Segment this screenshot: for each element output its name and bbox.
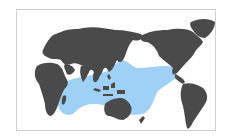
south-america-landmass bbox=[181, 83, 207, 128]
world-map-svg bbox=[17, 10, 216, 131]
central-america-landmass bbox=[175, 74, 185, 84]
distribution-map: Species distribution range bbox=[16, 9, 216, 131]
arabia-landmass bbox=[64, 64, 75, 75]
new-zealand-landmass bbox=[139, 116, 145, 124]
